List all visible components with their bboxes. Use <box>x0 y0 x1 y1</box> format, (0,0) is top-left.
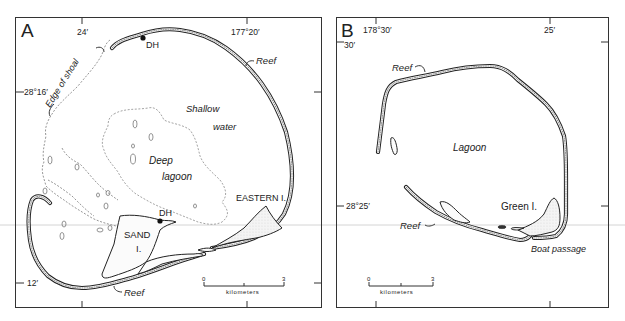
shoal-contour-inner <box>48 148 118 216</box>
arrow-icon <box>96 47 104 52</box>
svg-text:0: 0 <box>202 276 206 282</box>
reef-label: Reef <box>124 287 145 298</box>
deep-lagoon-label: Deep <box>149 155 173 166</box>
svg-text:0: 0 <box>367 276 371 282</box>
reef-label: Reef <box>392 62 413 73</box>
drill-hole-label: DH <box>159 208 172 218</box>
atoll-maps-figure: A 24′ 177°20′ 28°16′ 12′ <box>0 0 625 321</box>
panel-letter-b: B <box>341 20 354 41</box>
shallow-water-label: Shallow <box>186 103 220 114</box>
inner-reef-west <box>391 138 398 155</box>
drill-hole-label: DH <box>146 40 159 50</box>
eastern-island-spit <box>198 248 216 251</box>
shallow-water-label: water <box>213 121 237 132</box>
sand-island-label: SAND <box>124 229 151 240</box>
panel-a: A 24′ 177°20′ 28°16′ 12′ <box>16 17 322 308</box>
coord-label: 28°16′ <box>24 87 48 97</box>
drill-hole-marker <box>157 218 162 223</box>
drill-hole-marker <box>140 35 145 40</box>
scale-bar-a: 0 3 kilometers <box>202 276 286 295</box>
patch-reef <box>498 225 506 228</box>
coord-label: 30′ <box>344 40 355 50</box>
panel-b: B 178°30′ 25′ 30′ 28°25′ Reef Lagoon Gre… <box>337 17 609 308</box>
coord-label: 28°25′ <box>346 201 370 211</box>
panel-letter-a: A <box>21 20 34 41</box>
deep-lagoon-label: lagoon <box>162 171 192 182</box>
arrow-icon <box>415 66 425 72</box>
lagoon-label: Lagoon <box>453 142 487 153</box>
reef-label: Reef <box>400 220 421 231</box>
arrow-icon <box>114 286 122 292</box>
boat-passage-label: Boat passage <box>531 244 586 254</box>
svg-text:3: 3 <box>282 276 286 282</box>
reef-rim-b-south <box>406 187 530 240</box>
sand-island-label: I. <box>136 243 141 254</box>
eastern-island-label: EASTERN I. <box>236 193 286 203</box>
edge-of-shoal-label: Edge of shoal <box>43 56 81 109</box>
reef-label: Reef <box>256 55 277 66</box>
scale-bar-b: 0 3 kilometers <box>367 276 435 295</box>
coord-label: 177°20′ <box>231 27 260 37</box>
coord-label: 24′ <box>77 27 88 37</box>
svg-text:3: 3 <box>431 276 435 282</box>
coord-label: 178°30′ <box>363 25 392 35</box>
inner-reef-bar <box>440 202 470 223</box>
green-island-label: Green I. <box>501 201 537 212</box>
svg-text:kilometers: kilometers <box>226 289 259 295</box>
svg-text:kilometers: kilometers <box>380 289 413 295</box>
coord-label: 25′ <box>544 25 555 35</box>
coord-label: 12′ <box>27 278 38 288</box>
